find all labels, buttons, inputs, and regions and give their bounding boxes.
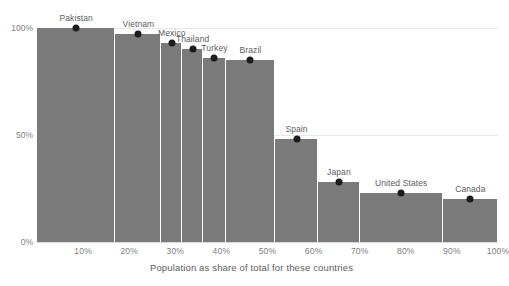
data-point-brazil[interactable] <box>247 57 254 64</box>
y-tick-label: 50% <box>0 130 33 140</box>
data-point-spain[interactable] <box>293 136 300 143</box>
y-axis: 0%50%100% <box>0 0 37 286</box>
point-label-spain: Spain <box>285 124 307 134</box>
bar-vietnam[interactable] <box>115 34 161 242</box>
point-label-japan: Japan <box>327 167 351 177</box>
x-tick-label: 100% <box>487 246 509 256</box>
x-tick-label: 50% <box>259 246 277 256</box>
bar-brazil[interactable] <box>226 60 275 242</box>
point-label-turkey: Turkey <box>201 43 227 53</box>
point-label-vietnam: Vietnam <box>123 19 155 29</box>
bar-mexico[interactable] <box>161 43 182 242</box>
point-label-united-states: United States <box>375 178 427 188</box>
bar-united-states[interactable] <box>360 193 443 242</box>
bar-pakistan[interactable] <box>37 28 115 242</box>
x-tick-label: 90% <box>443 246 461 256</box>
data-point-mexico[interactable] <box>168 39 175 46</box>
data-point-turkey[interactable] <box>211 54 218 61</box>
bar-spain[interactable] <box>275 139 318 242</box>
y-tick-label: 100% <box>0 23 33 33</box>
x-tick-label: 10% <box>74 246 92 256</box>
point-label-brazil: Brazil <box>240 45 262 55</box>
gridline-0pct <box>37 242 498 243</box>
x-tick-label: 40% <box>213 246 231 256</box>
plot-area <box>37 28 498 242</box>
data-point-united-states[interactable] <box>398 189 405 196</box>
point-label-canada: Canada <box>455 184 485 194</box>
bar-thailand[interactable] <box>182 49 203 242</box>
x-tick-label: 70% <box>351 246 369 256</box>
data-point-vietnam[interactable] <box>135 31 142 38</box>
x-tick-label: 80% <box>397 246 415 256</box>
bar-turkey[interactable] <box>203 58 226 242</box>
y-tick-label: 0% <box>0 237 33 247</box>
x-tick-label: 60% <box>305 246 323 256</box>
data-point-thailand[interactable] <box>189 46 196 53</box>
data-point-canada[interactable] <box>467 196 474 203</box>
bar-japan[interactable] <box>318 182 359 242</box>
data-point-pakistan[interactable] <box>73 25 80 32</box>
point-label-pakistan: Pakistan <box>59 13 92 23</box>
x-tick-label: 30% <box>166 246 184 256</box>
x-axis-title: Population as share of total for these c… <box>0 262 503 273</box>
bar-canada[interactable] <box>443 199 498 242</box>
x-tick-label: 20% <box>120 246 138 256</box>
data-point-japan[interactable] <box>335 179 342 186</box>
